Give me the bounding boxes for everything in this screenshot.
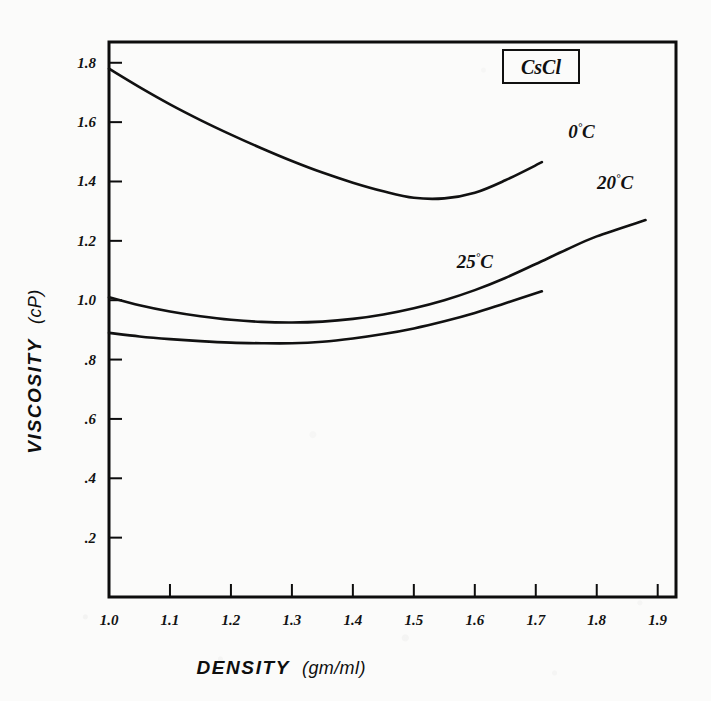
y-tick-label: 1.0 bbox=[77, 292, 96, 308]
x-tick-label: 1.7 bbox=[526, 612, 545, 628]
x-tick-label: 1.2 bbox=[222, 612, 241, 628]
curve-0C bbox=[109, 69, 542, 199]
x-tick-label: 1.5 bbox=[404, 612, 423, 628]
y-tick-label: .2 bbox=[85, 530, 97, 546]
y-tick-label: .4 bbox=[85, 470, 97, 486]
data-curves bbox=[109, 69, 646, 344]
x-tick-label: 1.6 bbox=[465, 612, 484, 628]
curve-20C bbox=[109, 220, 646, 322]
curve-labels: 0°C20°C25°C bbox=[456, 121, 634, 271]
legend-sample-label: CsCl bbox=[521, 56, 561, 78]
x-tick-label: 1.8 bbox=[587, 612, 606, 628]
y-tick-label: 1.8 bbox=[77, 55, 96, 71]
x-axis-ticks: 1.01.11.21.31.41.51.61.71.81.9 bbox=[100, 584, 668, 628]
y-axis-title-unit: (cP) bbox=[25, 289, 45, 324]
x-tick-label: 1.3 bbox=[283, 612, 302, 628]
y-tick-label: 1.4 bbox=[77, 173, 96, 189]
y-tick-label: 1.6 bbox=[77, 114, 96, 130]
legend-box: CsCl bbox=[503, 50, 579, 83]
y-tick-label: 1.2 bbox=[77, 233, 96, 249]
x-tick-label: 1.0 bbox=[100, 612, 119, 628]
curve-label-25C: 25°C bbox=[456, 251, 493, 272]
curve-label-value: 20 bbox=[596, 172, 617, 193]
y-axis-title-text: VISCOSITY bbox=[24, 337, 45, 453]
x-axis-title-unit: (gm/ml) bbox=[302, 658, 366, 678]
x-axis-title: DENSITY (gm/ml) bbox=[196, 657, 365, 678]
curve-25C bbox=[109, 291, 542, 343]
curve-label-20C: 20°C bbox=[596, 172, 633, 193]
chart-canvas: .2.4.6.81.01.21.41.61.8 1.01.11.21.31.41… bbox=[0, 0, 711, 701]
x-axis-title-text: DENSITY bbox=[196, 657, 290, 678]
curve-label-value: 25 bbox=[456, 251, 477, 272]
x-tick-label: 1.9 bbox=[648, 612, 667, 628]
x-tick-label: 1.1 bbox=[161, 612, 180, 628]
x-tick-label: 1.4 bbox=[343, 612, 362, 628]
curve-label-value: 0 bbox=[568, 121, 578, 142]
curve-label-0C: 0°C bbox=[568, 121, 595, 142]
y-tick-label: .8 bbox=[85, 352, 97, 368]
curve-label-unit: C bbox=[620, 172, 633, 193]
y-tick-label: .6 bbox=[85, 411, 97, 427]
curve-label-unit: C bbox=[582, 121, 595, 142]
viscosity-density-figure: .2.4.6.81.01.21.41.61.8 1.01.11.21.31.41… bbox=[0, 0, 711, 701]
curve-label-unit: C bbox=[480, 251, 493, 272]
y-axis-title: VISCOSITY (cP) bbox=[24, 289, 45, 453]
